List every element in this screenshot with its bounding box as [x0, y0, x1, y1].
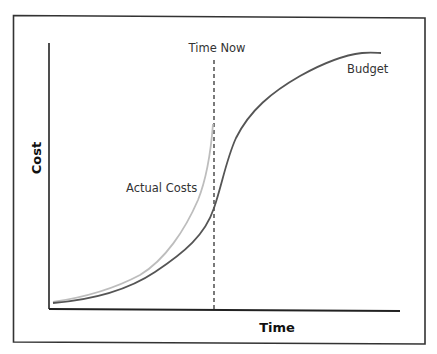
x-axis-title: Time [259, 320, 295, 335]
s-curve-diagram: Time Now Budget Actual Costs Time Cost [0, 0, 437, 354]
actual-costs-curve [53, 124, 213, 302]
budget-label: Budget [347, 62, 389, 76]
time-now-label: Time Now [188, 41, 246, 55]
y-axis-title: Cost [29, 142, 44, 174]
actual-costs-label: Actual Costs [126, 181, 197, 195]
x-axis [49, 309, 400, 311]
budget-curve [53, 53, 381, 303]
